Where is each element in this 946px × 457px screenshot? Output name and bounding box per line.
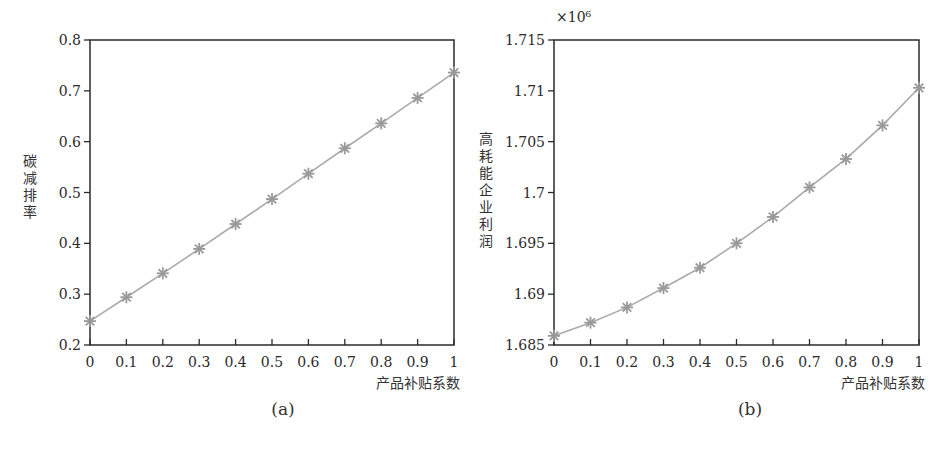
x-tick-label: 0	[86, 354, 95, 370]
x-axis-label-b: 产品补贴系数	[841, 375, 925, 391]
x-tick-label: 0	[550, 354, 559, 370]
x-tick-label: 0.9	[406, 354, 428, 370]
y-axis-label-char: 减	[23, 170, 37, 186]
asterisk-marker-icon	[84, 315, 96, 327]
asterisk-marker-icon	[658, 282, 670, 294]
x-tick-label: 0.3	[652, 354, 674, 370]
chart-panel-b: 1.6851.691.6951.71.7051.711.715 00.10.20…	[479, 9, 925, 419]
asterisk-marker-icon	[877, 119, 889, 131]
asterisk-marker-icon	[804, 181, 816, 193]
x-tick-label: 0.7	[798, 354, 820, 370]
y-tick-label: 1.695	[505, 235, 545, 251]
y-axis-label-char: 耗	[479, 148, 493, 164]
panel-label-b: (b)	[738, 399, 762, 419]
chart-panel-a: 0.20.30.40.50.60.70.8 00.10.20.30.40.50.…	[23, 32, 460, 419]
asterisk-marker-icon	[157, 267, 169, 279]
y-tick-label: 0.3	[59, 286, 81, 302]
y-scale-label-b: ×10⁶	[556, 9, 592, 25]
x-tick-label: 0.4	[224, 354, 246, 370]
y-axis-label-char: 率	[23, 204, 37, 220]
asterisk-marker-icon	[913, 82, 925, 94]
y-tick-label: 0.7	[59, 83, 81, 99]
y-tick-label: 0.2	[59, 337, 81, 353]
asterisk-marker-icon	[767, 211, 779, 223]
plot-frame-b	[554, 40, 919, 345]
y-tick-label: 1.7	[523, 185, 545, 201]
y-axis-label-char: 能	[479, 165, 493, 181]
x-tick-label: 0.2	[616, 354, 638, 370]
asterisk-marker-icon	[339, 142, 351, 154]
asterisk-marker-icon	[266, 193, 278, 205]
y-tick-label: 0.8	[59, 32, 81, 48]
asterisk-marker-icon	[840, 153, 852, 165]
x-tick-label: 1	[915, 354, 924, 370]
panel-label-a: (a)	[271, 399, 294, 419]
asterisk-marker-icon	[694, 262, 706, 274]
y-axis-label-char: 利	[479, 216, 493, 232]
series-markers-b	[548, 82, 925, 342]
asterisk-marker-icon	[448, 67, 460, 79]
y-axis-label-char: 高	[479, 131, 493, 147]
y-axis-label-a: 碳减排率 碳减排率	[23, 153, 37, 220]
series-line-b	[554, 88, 919, 336]
plot-frame-a	[90, 40, 454, 345]
x-axis-ticks-a: 00.10.20.30.40.50.60.70.80.91	[86, 339, 459, 370]
x-axis-label-a: 产品补贴系数	[376, 375, 460, 391]
y-axis-ticks-a: 0.20.30.40.50.60.70.8	[59, 32, 90, 353]
x-tick-label: 0.3	[188, 354, 210, 370]
y-axis-label-char: 排	[23, 187, 37, 203]
y-tick-label: 0.5	[59, 185, 81, 201]
y-tick-label: 1.715	[505, 32, 545, 48]
x-tick-label: 0.9	[871, 354, 893, 370]
x-tick-label: 0.1	[579, 354, 601, 370]
x-tick-label: 0.6	[297, 354, 319, 370]
y-axis-label-char: 碳	[23, 153, 37, 169]
y-tick-label: 1.71	[514, 83, 545, 99]
y-tick-label: 1.685	[505, 337, 545, 353]
asterisk-marker-icon	[585, 317, 597, 329]
asterisk-marker-icon	[193, 243, 205, 255]
y-axis-label-b: 高耗能企业利润 高耗能企业利润	[479, 131, 493, 249]
y-tick-label: 0.4	[59, 235, 81, 251]
asterisk-marker-icon	[120, 291, 132, 303]
x-tick-label: 0.5	[261, 354, 283, 370]
asterisk-marker-icon	[731, 237, 743, 249]
x-tick-label: 0.8	[370, 354, 392, 370]
x-tick-label: 0.6	[762, 354, 784, 370]
asterisk-marker-icon	[548, 330, 560, 342]
y-tick-label: 1.705	[505, 134, 545, 150]
x-tick-label: 0.7	[334, 354, 356, 370]
asterisk-marker-icon	[621, 301, 633, 313]
x-tick-label: 0.2	[152, 354, 174, 370]
figure: 0.20.30.40.50.60.70.8 00.10.20.30.40.50.…	[0, 0, 946, 457]
asterisk-marker-icon	[412, 92, 424, 104]
y-axis-label-char: 润	[479, 233, 493, 249]
asterisk-marker-icon	[302, 168, 314, 180]
x-tick-label: 0.8	[835, 354, 857, 370]
y-axis-label-char: 业	[479, 199, 493, 215]
x-axis-ticks-b: 00.10.20.30.40.50.60.70.80.91	[550, 339, 924, 370]
asterisk-marker-icon	[230, 218, 242, 230]
asterisk-marker-icon	[375, 117, 387, 129]
x-tick-label: 0.5	[725, 354, 747, 370]
y-axis-label-char: 企	[479, 182, 493, 198]
y-tick-label: 0.6	[59, 134, 81, 150]
x-tick-label: 1	[450, 354, 459, 370]
y-tick-label: 1.69	[514, 286, 545, 302]
x-tick-label: 0.1	[115, 354, 137, 370]
x-tick-label: 0.4	[689, 354, 711, 370]
y-axis-ticks-b: 1.6851.691.6951.71.7051.711.715	[505, 32, 554, 353]
